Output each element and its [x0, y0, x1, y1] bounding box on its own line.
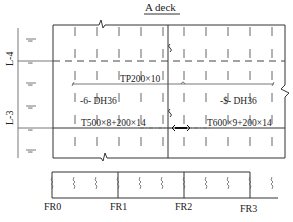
- left-girder-label: T500×8+200×14: [81, 118, 146, 128]
- left-grade-label: -6- DH36: [80, 96, 117, 106]
- stiffener-lines: [75, 27, 272, 158]
- break-symbol-upper: [169, 44, 172, 52]
- deck-plan-frame: [53, 20, 289, 161]
- stiffener-symbols: [51, 177, 273, 189]
- top-plate-label: TP200×10: [120, 74, 160, 84]
- svg-text:zzz: zzz: [28, 128, 33, 132]
- right-girder-label: T600×9+200×14: [207, 118, 272, 128]
- left-ruler: zzz zzz zzz zzz zzz zzz: [18, 28, 53, 158]
- break-symbol-lower: [169, 109, 172, 117]
- right-grade-label: -$- DH36: [220, 96, 257, 106]
- level-label-l3: L-3: [4, 111, 15, 125]
- frame-section: [51, 172, 278, 198]
- ruler-ticks: zzz zzz zzz zzz zzz zzz: [26, 39, 36, 154]
- level-label-l4: L-4: [4, 52, 15, 66]
- svg-text:zzz: zzz: [28, 150, 33, 154]
- frame-label-fr3: FR3: [240, 203, 257, 214]
- svg-text:zzz: zzz: [28, 83, 33, 87]
- frame-label-fr0: FR0: [44, 201, 61, 212]
- svg-text:zzz: zzz: [28, 106, 33, 110]
- svg-text:zzz: zzz: [28, 61, 33, 65]
- deck-structure-diagram: A deck zzz zzz zzz zzz zzz zzz L-4 L-3: [0, 0, 293, 222]
- svg-text:zzz: zzz: [28, 39, 33, 43]
- frame-label-fr2: FR2: [175, 201, 192, 212]
- diagram-title: A deck: [145, 1, 176, 13]
- frame-label-fr1: FR1: [110, 201, 127, 212]
